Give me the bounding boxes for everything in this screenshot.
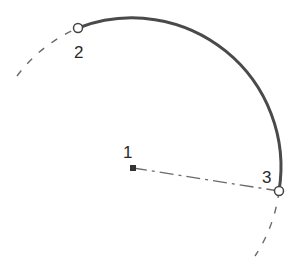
center-point-marker[interactable] (130, 165, 136, 171)
radius-line (133, 168, 279, 191)
end-point-marker[interactable] (275, 187, 284, 196)
dashed-extension-start (17, 28, 78, 76)
label-point-3: 3 (262, 168, 271, 187)
start-point-marker[interactable] (74, 24, 83, 33)
arc-diagram: 1 2 3 (0, 0, 302, 267)
dashed-extension-end (255, 191, 279, 256)
arc-2-to-3 (78, 18, 281, 191)
label-point-2: 2 (74, 43, 83, 62)
label-point-1: 1 (123, 143, 132, 162)
